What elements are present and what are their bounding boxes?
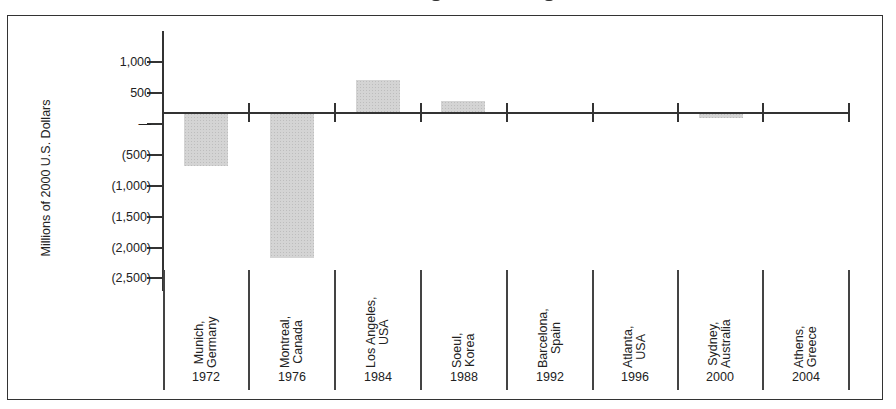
category-label-atlanta: Atlanta,USA 1996 <box>592 270 678 390</box>
category-label-barcelona: Barcelona,Spain 1992 <box>507 270 593 390</box>
bar-sydney-2000 <box>699 113 743 118</box>
x-tick <box>592 103 594 122</box>
y-tick-label: (2,000) <box>111 241 151 255</box>
y-tick-label: (500) <box>122 148 151 162</box>
y-tick-label: (1,000) <box>111 179 151 193</box>
x-tick <box>506 103 508 122</box>
y-axis-title: Millions of 2000 U.S. Dollars <box>39 99 53 256</box>
bar-los-angeles-1984 <box>356 80 400 113</box>
x-tick <box>677 103 679 122</box>
y-tick-label: 500 <box>130 86 151 100</box>
x-tick <box>334 103 336 122</box>
category-label-montreal: Montreal,Canada 1976 <box>249 270 335 390</box>
category-label-sydney: Sydney,Australia 2000 <box>677 270 763 390</box>
bar-montreal-1976 <box>270 113 314 258</box>
x-tick <box>848 103 850 122</box>
category-label-seoul: Soeul,Korea 1988 <box>421 270 507 390</box>
y-tick-label: (1,500) <box>111 210 151 224</box>
x-tick <box>762 103 764 122</box>
y-tick-label: — <box>139 117 152 131</box>
y-tick-label: 1,000 <box>120 55 151 69</box>
chart-title-cropped <box>0 0 896 4</box>
y-tick-label: (2,500) <box>111 271 151 285</box>
x-tick <box>248 103 250 122</box>
category-label-athens: Athens,Greece 2004 <box>763 270 849 390</box>
y-axis-line <box>162 31 164 291</box>
x-tick <box>420 103 422 122</box>
bar-munich-1972 <box>184 113 228 166</box>
category-label-los-angeles: Los Angeles,USA 1984 <box>335 270 421 390</box>
category-label-munich: Munich,Germany 1972 <box>163 270 249 390</box>
